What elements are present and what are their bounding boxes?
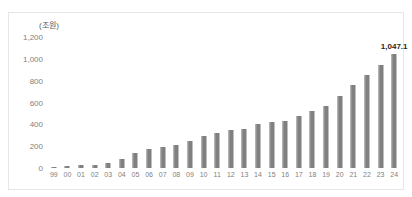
bar-group: 16 xyxy=(278,13,292,191)
bar[interactable] xyxy=(351,85,356,168)
bar-group: 07 xyxy=(156,13,170,191)
bar-series: 9900010203040506070809101112131415161718… xyxy=(47,13,399,191)
bar-group: 15 xyxy=(265,13,279,191)
x-axis-tick-label: 14 xyxy=(254,171,262,178)
bar[interactable] xyxy=(378,65,383,168)
x-axis-tick-label: 02 xyxy=(91,171,99,178)
x-axis-tick-label: 23 xyxy=(377,171,385,178)
y-axis-tick-label: 1,200 xyxy=(15,33,43,42)
x-axis-tick-label: 20 xyxy=(336,171,344,178)
x-axis-tick-label: 09 xyxy=(186,171,194,178)
bar[interactable] xyxy=(269,122,274,168)
y-axis-tick-label: 1,000 xyxy=(15,54,43,63)
x-axis-tick-label: 01 xyxy=(77,171,85,178)
bar-group: 03 xyxy=(101,13,115,191)
bar[interactable] xyxy=(283,121,288,168)
bar-group: 09 xyxy=(183,13,197,191)
bar[interactable] xyxy=(324,106,329,168)
bar-group: 19 xyxy=(319,13,333,191)
bar-group: 13 xyxy=(238,13,252,191)
bar-group: 10 xyxy=(197,13,211,191)
bar-group: 04 xyxy=(115,13,129,191)
x-axis-tick-label: 16 xyxy=(281,171,289,178)
x-axis-tick-label: 22 xyxy=(363,171,371,178)
bar-group: 14 xyxy=(251,13,265,191)
bar[interactable] xyxy=(187,141,192,168)
x-axis-tick-label: 24 xyxy=(390,171,398,178)
bar-group: 12 xyxy=(224,13,238,191)
bar-group: 08 xyxy=(170,13,184,191)
bar-group: 06 xyxy=(142,13,156,191)
x-axis-tick-label: 19 xyxy=(322,171,330,178)
bar[interactable] xyxy=(392,54,397,168)
bar-group: 22 xyxy=(360,13,374,191)
y-axis-tick-label: 800 xyxy=(15,76,43,85)
bar[interactable] xyxy=(337,96,342,168)
bar[interactable] xyxy=(201,136,206,168)
bar[interactable] xyxy=(119,159,124,168)
y-axis: 1,2001,0008006004002000 xyxy=(15,13,43,191)
bar-group: 11 xyxy=(210,13,224,191)
bar-group: 18 xyxy=(306,13,320,191)
bar-group: 00 xyxy=(61,13,75,191)
bar[interactable] xyxy=(92,165,97,168)
x-axis-tick-label: 07 xyxy=(159,171,167,178)
bar[interactable] xyxy=(65,166,70,168)
bar[interactable] xyxy=(256,124,261,168)
bar-group: 20 xyxy=(333,13,347,191)
bar-group: 24 xyxy=(387,13,401,191)
bar-group: 02 xyxy=(88,13,102,191)
bar-group: 21 xyxy=(347,13,361,191)
bar-value-label: 1,047.1 xyxy=(381,42,408,51)
x-axis-tick-label: 05 xyxy=(132,171,140,178)
x-axis-tick-label: 12 xyxy=(227,171,235,178)
bar[interactable] xyxy=(215,133,220,168)
y-axis-tick-label: 0 xyxy=(15,164,43,173)
bar[interactable] xyxy=(160,147,165,168)
x-axis-tick-label: 06 xyxy=(145,171,153,178)
bar[interactable] xyxy=(51,167,56,168)
y-axis-tick-label: 200 xyxy=(15,142,43,151)
plot-area: 1,2001,0008006004002000 9900010203040506… xyxy=(9,13,403,189)
bar-group: 23 xyxy=(374,13,388,191)
bar[interactable] xyxy=(174,145,179,168)
bar[interactable] xyxy=(364,75,369,168)
y-axis-tick-label: 400 xyxy=(15,120,43,129)
bar[interactable] xyxy=(296,116,301,168)
bar[interactable] xyxy=(310,111,315,168)
x-axis-tick-label: 13 xyxy=(241,171,249,178)
x-axis-tick-label: 18 xyxy=(309,171,317,178)
x-axis-tick-label: 00 xyxy=(64,171,72,178)
x-axis-tick-label: 21 xyxy=(349,171,357,178)
x-axis-tick-label: 11 xyxy=(214,171,221,178)
bar[interactable] xyxy=(106,163,111,168)
x-axis-tick-label: 10 xyxy=(200,171,208,178)
bar-group: 01 xyxy=(74,13,88,191)
x-axis-tick-label: 04 xyxy=(118,171,126,178)
x-axis-tick-label: 15 xyxy=(268,171,276,178)
x-axis-tick-label: 17 xyxy=(295,171,303,178)
chart-frame: (조원) 1,2001,0008006004002000 99000102030… xyxy=(8,12,404,190)
bar[interactable] xyxy=(133,153,138,168)
bar[interactable] xyxy=(79,165,84,168)
bar-group: 99 xyxy=(47,13,61,191)
x-axis-tick-label: 99 xyxy=(50,171,58,178)
bar-group: 05 xyxy=(129,13,143,191)
x-axis-tick-label: 08 xyxy=(172,171,180,178)
bar[interactable] xyxy=(242,129,247,168)
y-axis-tick-label: 600 xyxy=(15,98,43,107)
bar[interactable] xyxy=(147,149,152,168)
bar-group: 17 xyxy=(292,13,306,191)
x-axis-tick-label: 03 xyxy=(104,171,112,178)
bar[interactable] xyxy=(228,130,233,168)
